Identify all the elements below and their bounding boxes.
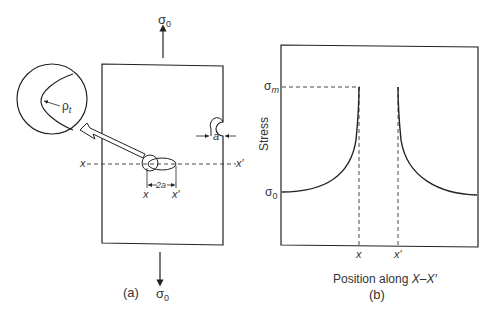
tip-radius-label: ρt bbox=[62, 99, 72, 115]
x-axis-label: Position along X–X′ bbox=[333, 272, 437, 286]
x-tick-left: x bbox=[355, 248, 362, 260]
enlarged-tip-circle bbox=[17, 64, 87, 134]
figure-b-chart: σm σ0 x x′ Stress Position along X–X′ (b… bbox=[257, 45, 478, 302]
section-left-label: x bbox=[79, 157, 86, 169]
crack-length-label: 2a bbox=[155, 180, 166, 190]
figure-a: σ0 a x x′ 2a x x′ ρt (a) bbox=[17, 12, 245, 303]
section-right-label: x′ bbox=[235, 157, 245, 169]
crack-right-label: x′ bbox=[171, 188, 181, 200]
chart-frame bbox=[281, 45, 478, 247]
top-load-label: σ0 bbox=[158, 12, 171, 29]
figure-a-caption: (a) bbox=[123, 285, 139, 300]
y-axis-label: Stress bbox=[257, 117, 271, 151]
callout-arrow-icon bbox=[80, 123, 145, 158]
bottom-load-label: σ0 bbox=[156, 286, 169, 303]
y-tick-sigma-m: σm bbox=[264, 79, 279, 95]
crack-tip-magnifier bbox=[142, 155, 158, 171]
figure-b-caption: (b) bbox=[369, 287, 385, 302]
tip-radius-arrow-icon bbox=[44, 101, 60, 106]
crack-left-label: x bbox=[142, 188, 149, 200]
x-tick-right: x′ bbox=[393, 248, 403, 260]
stress-curve-right bbox=[398, 87, 477, 195]
y-tick-sigma-0: σ0 bbox=[265, 185, 277, 201]
stress-curve-left bbox=[282, 87, 359, 192]
specimen-plate bbox=[102, 64, 223, 245]
stress-concentration-figure: σ0 a x x′ 2a x x′ ρt (a) bbox=[0, 0, 491, 313]
edge-notch-label: a bbox=[213, 130, 219, 142]
